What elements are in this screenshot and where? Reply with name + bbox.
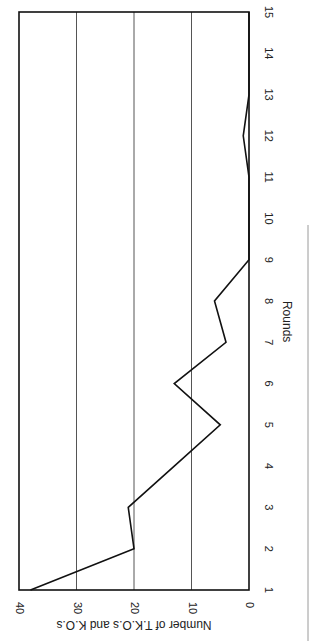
y-tick-label: 20: [129, 602, 141, 614]
x-tick-label: 7: [263, 339, 275, 345]
x-tick-label: 8: [263, 298, 275, 304]
x-tick-label: 11: [263, 171, 275, 182]
x-tick-label: 13: [263, 88, 275, 100]
x-tick-label: 3: [263, 504, 275, 510]
y-tick-label: 40: [14, 602, 26, 614]
y-tick-label: 0: [244, 602, 256, 608]
x-axis-title: Rounds: [280, 301, 294, 342]
x-tick-label: 15: [263, 6, 275, 18]
x-tick-label: 2: [263, 546, 275, 552]
x-tick-label: 6: [263, 381, 275, 387]
y-tick-label: 10: [187, 602, 199, 614]
y-axis-title: Number of T.K.O.s and K.O.s: [56, 618, 211, 632]
y-tick-label: 30: [72, 602, 84, 614]
plot-area: 010203040123456789101112131415RoundsNumb…: [14, 6, 294, 632]
x-tick-label: 5: [263, 422, 275, 428]
chart: 010203040123456789101112131415RoundsNumb…: [0, 0, 312, 641]
x-tick-label: 10: [263, 212, 275, 224]
x-tick-label: 4: [263, 463, 275, 469]
x-tick-label: 1: [263, 587, 275, 593]
x-tick-label: 14: [263, 47, 275, 59]
data-line: [31, 12, 250, 590]
x-tick-label: 12: [263, 130, 275, 142]
x-tick-label: 9: [263, 257, 275, 263]
